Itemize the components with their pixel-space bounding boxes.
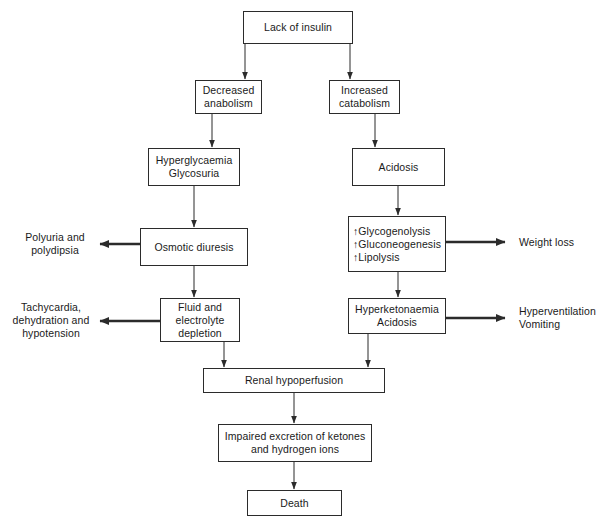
node-osmotic-diuresis-text: Osmotic diuresis [154, 241, 233, 254]
label-tachycardia-line1: Tachycardia, [21, 301, 81, 313]
node-fluid-depletion-line3: depletion [176, 327, 225, 340]
label-tachycardia: Tachycardia, dehydration and hypotension [4, 301, 98, 340]
node-hyperglycaemia-line1: Hyperglycaemia [156, 154, 233, 167]
node-hyperketonaemia-line1: Hyperketonaemia [355, 303, 439, 316]
node-hyperketonaemia-line2: Acidosis [355, 316, 439, 329]
node-increased-catabolism: Increased catabolism [329, 80, 400, 114]
label-weight-loss: Weight loss [519, 236, 603, 249]
label-hyperventilation-line2: Vomiting [519, 318, 560, 330]
label-polyuria-polydipsia: Polyuria and polydipsia [12, 231, 98, 257]
node-decreased-anabolism-line1: Decreased [203, 84, 255, 97]
node-hyperglycaemia-glycosuria: Hyperglycaemia Glycosuria [148, 148, 240, 186]
label-hyperventilation-vomiting: Hyperventilation Vomiting [519, 305, 605, 331]
node-osmotic-diuresis: Osmotic diuresis [140, 228, 248, 266]
node-impaired-excretion-line1: Impaired excretion of ketones [225, 430, 366, 443]
label-tachycardia-line3: hypotension [22, 327, 80, 339]
node-decreased-anabolism: Decreased anabolism [195, 80, 262, 114]
label-weight-loss-text: Weight loss [519, 236, 574, 248]
node-metabolic-increases-line2: ↑Gluconeogenesis [353, 238, 441, 251]
label-polyuria-line1: Polyuria and [25, 231, 85, 243]
node-lack-of-insulin-text: Lack of insulin [264, 21, 332, 34]
node-fluid-depletion-line2: electrolyte [176, 314, 225, 327]
node-lack-of-insulin: Lack of insulin [243, 11, 353, 44]
node-renal-hypoperfusion-text: Renal hypoperfusion [245, 374, 343, 387]
node-acidosis: Acidosis [352, 148, 445, 186]
node-metabolic-increases-line1: ↑Glycogenolysis [353, 225, 441, 238]
node-increased-catabolism-line2: catabolism [339, 97, 390, 110]
label-tachycardia-line2: dehydration and [13, 314, 90, 326]
node-increased-catabolism-line1: Increased [339, 84, 390, 97]
node-hyperketonaemia-acidosis: Hyperketonaemia Acidosis [348, 298, 446, 334]
node-death-text: Death [280, 497, 309, 510]
node-fluid-electrolyte-depletion: Fluid and electrolyte depletion [160, 298, 240, 342]
flowchart-canvas: Lack of insulin Decreased anabolism Incr… [0, 0, 606, 529]
node-hyperglycaemia-line2: Glycosuria [156, 167, 233, 180]
label-polyuria-line2: polydipsia [31, 244, 79, 256]
node-fluid-depletion-line1: Fluid and [176, 301, 225, 314]
node-metabolic-increases-line3: ↑Lipolysis [353, 251, 441, 264]
node-acidosis-text: Acidosis [379, 161, 419, 174]
node-renal-hypoperfusion: Renal hypoperfusion [203, 368, 385, 393]
node-impaired-excretion: Impaired excretion of ketones and hydrog… [218, 424, 372, 462]
node-impaired-excretion-line2: and hydrogen ions [225, 443, 366, 456]
node-death: Death [247, 490, 342, 516]
node-metabolic-increases: ↑Glycogenolysis ↑Gluconeogenesis ↑Lipoly… [348, 216, 446, 272]
label-hyperventilation-line1: Hyperventilation [519, 305, 596, 317]
node-decreased-anabolism-line2: anabolism [203, 97, 255, 110]
